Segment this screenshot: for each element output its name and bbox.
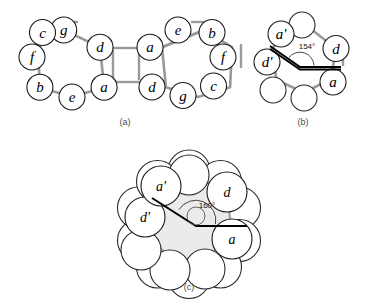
- panel-a: g d a e b f c e b f c g: [19, 17, 241, 127]
- atom-label: g: [60, 22, 68, 38]
- atom-label: b: [36, 79, 44, 95]
- atom-label: d: [96, 39, 104, 55]
- atom-circle: [291, 85, 317, 111]
- atom-label: a': [276, 26, 288, 42]
- atom-label: a: [146, 39, 154, 55]
- panel-c-caption: (c): [184, 282, 195, 292]
- atom-label: a: [100, 79, 108, 95]
- panel-c: d a d' a' 160° (c): [118, 150, 261, 299]
- atom-label: a: [229, 232, 236, 247]
- atom-label: c: [39, 25, 46, 41]
- atom-label: g: [179, 88, 187, 104]
- atom-label: e: [175, 22, 182, 38]
- atom-label: e: [69, 89, 76, 105]
- atom-label: d: [148, 79, 156, 95]
- atom-label: c: [210, 78, 217, 94]
- angle-value-c: 160°: [199, 201, 216, 210]
- panel-b-atoms: d a d' a': [254, 12, 349, 111]
- atom-label: d': [262, 54, 274, 70]
- angle-value-b: 154°: [299, 42, 316, 51]
- atom-circle: [260, 77, 286, 103]
- figure-root: g d a e b f c e b f c g: [0, 0, 378, 308]
- panel-b: d a d' a' 154° (b): [254, 12, 349, 127]
- panel-b-caption: (b): [298, 117, 309, 127]
- atom-label: d: [332, 41, 340, 57]
- atom-label: a': [156, 179, 167, 194]
- atom-label: d: [224, 185, 232, 200]
- atom-label: b: [208, 25, 216, 41]
- panel-a-caption: (a): [120, 117, 131, 127]
- right-ring-atoms: e b f c g d a: [137, 17, 236, 109]
- atom-label: a: [329, 74, 337, 90]
- atom-label: d': [140, 210, 151, 225]
